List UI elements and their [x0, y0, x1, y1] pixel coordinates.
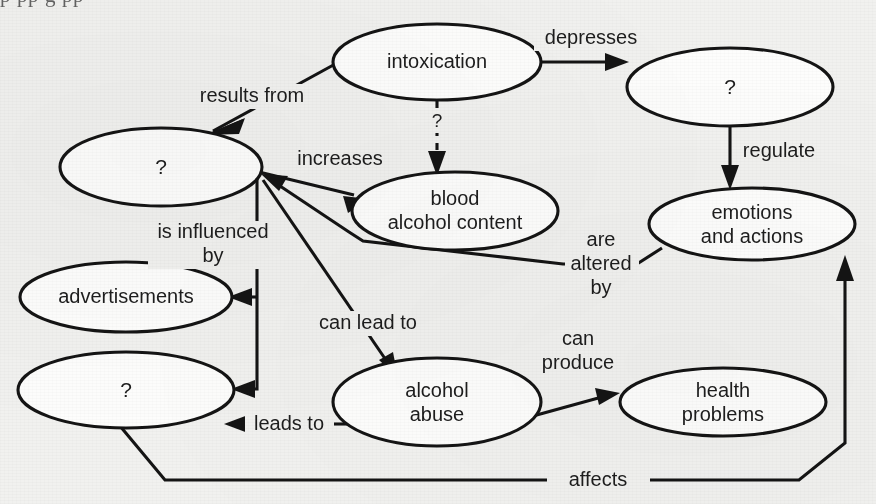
link-label-results-from: results from — [186, 84, 319, 109]
node-health-problems-ellipse[interactable] — [620, 368, 826, 436]
link-label-results-from-text: results from — [200, 84, 304, 106]
node-emotions-and-actions-ellipse[interactable] — [649, 188, 855, 260]
node-advertisements-label: advertisements — [58, 285, 194, 307]
link-label-can-lead-to: can lead to — [309, 311, 427, 336]
node-unknown-top-right-label: ? — [724, 75, 736, 98]
concept-map-canvas: intoxication ? ? blood alcohol content e… — [0, 0, 876, 504]
node-alcohol-abuse-label-line1: alcohol — [405, 379, 468, 401]
node-emotions-and-actions-label-line2: and actions — [701, 225, 803, 247]
link-can-produce — [533, 388, 620, 416]
node-alcohol-abuse-ellipse[interactable] — [333, 358, 541, 446]
link-label-regulate-text: regulate — [743, 139, 815, 161]
link-line-can-produce — [533, 397, 602, 416]
link-label-regulate: regulate — [735, 139, 824, 164]
node-blood-alcohol-content[interactable]: blood alcohol content — [352, 172, 558, 250]
link-label-increases: increases — [286, 147, 394, 172]
link-label-intoxication-question: ? — [425, 109, 449, 133]
node-blood-alcohol-content-label-line1: blood — [431, 187, 480, 209]
link-label-can-produce-line2: produce — [542, 351, 614, 373]
link-label-can-lead-to-text: can lead to — [319, 311, 417, 333]
arrow-head-regulate — [721, 165, 739, 190]
link-label-are-altered-by-line3: by — [590, 276, 611, 298]
link-label-can-produce: can produce — [527, 327, 629, 376]
link-is-influenced-by — [228, 177, 257, 398]
link-depresses — [541, 53, 629, 71]
link-label-affects: affects — [547, 468, 650, 493]
node-health-problems-label-line1: health — [696, 379, 751, 401]
node-unknown-bottom-left[interactable]: ? — [18, 352, 234, 428]
node-unknown-top-right[interactable]: ? — [627, 48, 833, 126]
node-intoxication[interactable]: intoxication — [333, 24, 541, 100]
link-label-are-altered-by-line1: are — [587, 228, 616, 250]
arrow-head-leads-to — [224, 415, 248, 433]
link-label-is-influenced-by: is influenced by — [148, 220, 278, 269]
node-unknown-left-label: ? — [155, 155, 167, 178]
link-label-is-influenced-by-line1: is influenced — [157, 220, 268, 242]
node-emotions-and-actions-label-line1: emotions — [711, 201, 792, 223]
link-label-depresses-text: depresses — [545, 26, 637, 48]
link-line-is-influenced-by-branch-unknown — [251, 297, 257, 389]
link-label-can-produce-line1: can — [562, 327, 594, 349]
link-label-leads-to-text: leads to — [254, 412, 324, 434]
link-label-is-influenced-by-line2: by — [202, 244, 223, 266]
node-health-problems-label-line2: problems — [682, 403, 764, 425]
node-unknown-bottom-left-label: ? — [120, 378, 132, 401]
node-emotions-and-actions[interactable]: emotions and actions — [649, 188, 855, 260]
link-label-affects-text: affects — [569, 468, 628, 490]
node-alcohol-abuse[interactable]: alcohol abuse — [333, 358, 541, 446]
link-label-depresses: depresses — [534, 26, 647, 51]
link-label-question-text: ? — [432, 110, 443, 131]
node-blood-alcohol-content-label-line2: alcohol content — [388, 211, 523, 233]
link-label-increases-text: increases — [297, 147, 383, 169]
node-alcohol-abuse-label-line2: abuse — [410, 403, 465, 425]
link-label-are-altered-by-line2: altered — [570, 252, 631, 274]
link-label-leads-to: leads to — [245, 412, 333, 437]
arrow-head-depresses — [605, 53, 629, 71]
node-unknown-left[interactable]: ? — [60, 128, 262, 206]
concept-map-figure: p pp g pp — [0, 0, 876, 504]
node-intoxication-label: intoxication — [387, 50, 487, 72]
arrow-head-affects — [836, 255, 854, 281]
link-label-are-altered-by: are altered by — [565, 228, 639, 301]
node-advertisements[interactable]: advertisements — [20, 262, 232, 332]
arrow-head-can-produce — [595, 388, 620, 405]
node-health-problems[interactable]: health problems — [620, 368, 826, 436]
